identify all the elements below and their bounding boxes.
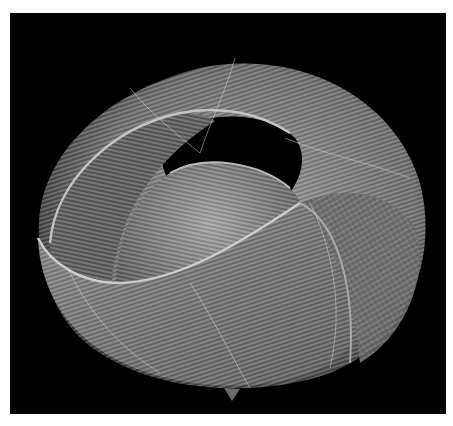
sculpture-foot	[224, 388, 240, 401]
image-caption	[10, 417, 446, 426]
page	[0, 0, 453, 426]
woven-sculpture-illustration	[10, 13, 446, 414]
sculpture-photo	[10, 13, 446, 414]
